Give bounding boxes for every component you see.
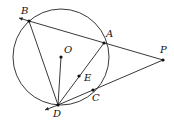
label-d: D bbox=[52, 108, 61, 119]
label-a: A bbox=[105, 28, 113, 39]
point-b bbox=[27, 19, 30, 22]
point-e bbox=[77, 74, 80, 77]
label-p: P bbox=[159, 44, 167, 55]
label-c: C bbox=[92, 92, 100, 103]
point-p bbox=[161, 58, 164, 61]
point-o bbox=[59, 55, 62, 58]
label-e: E bbox=[83, 72, 92, 83]
point-a bbox=[102, 41, 105, 44]
label-b: B bbox=[20, 5, 28, 16]
segment-dp bbox=[58, 60, 163, 105]
segment-bd bbox=[29, 21, 58, 105]
label-o: O bbox=[64, 44, 72, 55]
segment-od bbox=[58, 57, 61, 105]
point-d bbox=[56, 103, 59, 106]
geometry-diagram: BAPOECD bbox=[0, 0, 174, 123]
